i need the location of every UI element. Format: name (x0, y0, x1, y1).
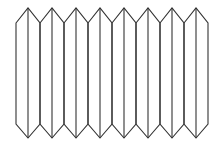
hexagon-columns (16, 8, 208, 138)
hexagon-column (88, 8, 112, 138)
hexagon-column (184, 8, 208, 138)
pleated-hexagon-diagram (0, 0, 217, 155)
hexagon-column (40, 8, 64, 138)
hexagon-column (16, 8, 40, 138)
hexagon-column (160, 8, 184, 138)
hexagon-column (64, 8, 88, 138)
hexagon-column (112, 8, 136, 138)
hexagon-column (136, 8, 160, 138)
